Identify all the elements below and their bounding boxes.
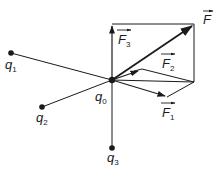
- label-F3: F3: [118, 32, 131, 49]
- f2-extension: [134, 69, 142, 71]
- charge-labels: q1 q2 q0 q3: [5, 57, 119, 167]
- f1-parallel: [167, 82, 194, 97]
- q0-to-corner: [112, 80, 194, 82]
- label-q0: q0: [95, 89, 107, 106]
- vector-F1: [112, 80, 165, 96]
- label-F1: F1: [162, 105, 175, 122]
- label-F: F: [203, 12, 212, 27]
- force-diagram: q1 q2 q0 q3 F F3 F2 F1: [0, 0, 219, 172]
- charge-q1: [8, 50, 14, 56]
- label-F2: F2: [162, 56, 175, 73]
- charge-q0: [109, 77, 115, 83]
- vector-F2: [112, 71, 138, 80]
- label-q1: q1: [5, 57, 17, 74]
- charge-q2: [39, 104, 45, 110]
- line-q1-q0: [11, 53, 112, 80]
- label-q2: q2: [36, 110, 48, 127]
- label-q3: q3: [107, 150, 119, 167]
